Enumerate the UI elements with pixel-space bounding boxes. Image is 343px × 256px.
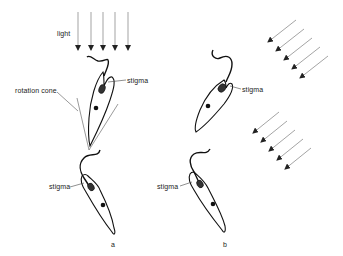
light-arrow-icon [269, 130, 295, 151]
light-label: light [57, 30, 70, 37]
rotation-cone-leader [57, 92, 78, 111]
flagellum-icon [212, 50, 232, 82]
diagram-svg [0, 0, 343, 256]
panel-label-b: b [223, 241, 227, 248]
stigma-label-a-top: stigma [127, 77, 148, 84]
flagellum-icon [87, 56, 109, 76]
flagellum-icon [80, 150, 100, 186]
rotation-cone-label: rotation cone [15, 87, 57, 94]
stigma-label-b-top: stigma [242, 86, 263, 93]
stigma-label-a-bottom: stigma [49, 183, 70, 190]
diagonal-light-arrows-upper [268, 20, 328, 78]
light-arrow-icon [277, 139, 303, 160]
stigma-icon [98, 84, 107, 95]
diagram-canvas: light rotation cone stigma stigma stigma… [0, 0, 343, 256]
stigma-leader [230, 86, 241, 89]
euglena-b-bottom [180, 149, 225, 232]
nucleus-icon [211, 202, 216, 207]
light-arrow-icon [261, 121, 287, 142]
vertical-light-arrows [78, 12, 128, 50]
euglena-a-top [87, 56, 126, 146]
nucleus-icon [206, 104, 211, 109]
diagonal-light-arrows-lower [253, 112, 311, 169]
light-arrow-icon [253, 112, 279, 133]
stigma-leader [108, 80, 126, 82]
light-arrow-icon [285, 148, 311, 169]
euglena-a-bottom [70, 150, 115, 234]
nucleus-icon [94, 106, 99, 111]
rotation-cone [57, 92, 118, 150]
panel-label-a: a [111, 241, 115, 248]
euglena-b-top [195, 50, 241, 132]
nucleus-icon [101, 203, 106, 208]
stigma-label-b-bottom: stigma [157, 183, 178, 190]
